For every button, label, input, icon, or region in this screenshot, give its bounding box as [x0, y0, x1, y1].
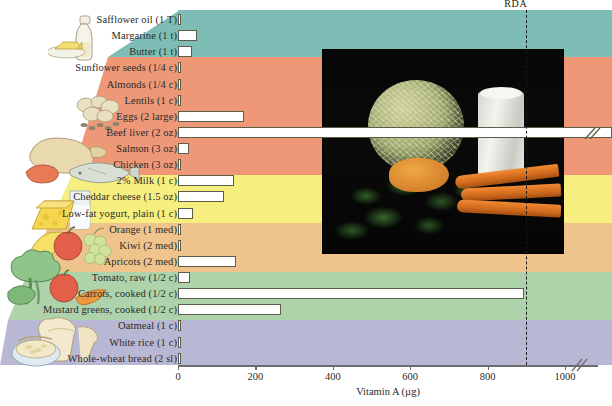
x-tick [488, 365, 489, 370]
value-bar [178, 288, 524, 299]
value-bar [178, 191, 224, 202]
x-axis-title: Vitamin A (µg) [178, 386, 598, 397]
x-tick [333, 365, 334, 370]
x-tick-label: 800 [480, 371, 496, 382]
value-bar [178, 95, 181, 106]
value-bar [178, 224, 181, 235]
value-bar [178, 272, 190, 283]
rda-label: RDA [504, 0, 527, 9]
value-bar [178, 159, 181, 170]
value-bar [178, 111, 244, 122]
x-tick [410, 365, 411, 370]
value-bar [178, 304, 281, 315]
value-bar [178, 320, 181, 331]
row-label: Whole-wheat bread (2 sl) [0, 349, 177, 368]
x-tick-label: 1000 [555, 371, 576, 382]
value-bar [178, 14, 181, 25]
x-tick [255, 365, 256, 370]
chart-rows: Safflower oil (1 T)Margarine (1 t)Butter… [0, 10, 612, 365]
value-bar [178, 353, 181, 364]
axis-break-mark [568, 358, 590, 372]
x-tick-label: 400 [325, 371, 341, 382]
x-tick-label: 600 [402, 371, 418, 382]
value-bar [178, 143, 189, 154]
vitamin-a-food-sources-chart: Safflower oil (1 T)Margarine (1 t)Butter… [0, 0, 612, 406]
value-bar [178, 208, 193, 219]
x-tick-label: 0 [175, 371, 180, 382]
value-bar [178, 62, 181, 73]
value-bar [178, 127, 612, 138]
rda-reference-line [526, 10, 527, 365]
value-bar [178, 175, 234, 186]
value-bar [178, 240, 181, 251]
value-bar [178, 256, 236, 267]
value-bar [178, 46, 192, 57]
x-tick-label: 200 [248, 371, 264, 382]
x-tick [178, 365, 179, 370]
x-axis-line [178, 365, 598, 367]
value-bar [178, 79, 181, 90]
x-tick [565, 365, 566, 370]
value-bar [178, 337, 181, 348]
bar-break-mark [581, 127, 603, 140]
value-bar [178, 30, 197, 41]
